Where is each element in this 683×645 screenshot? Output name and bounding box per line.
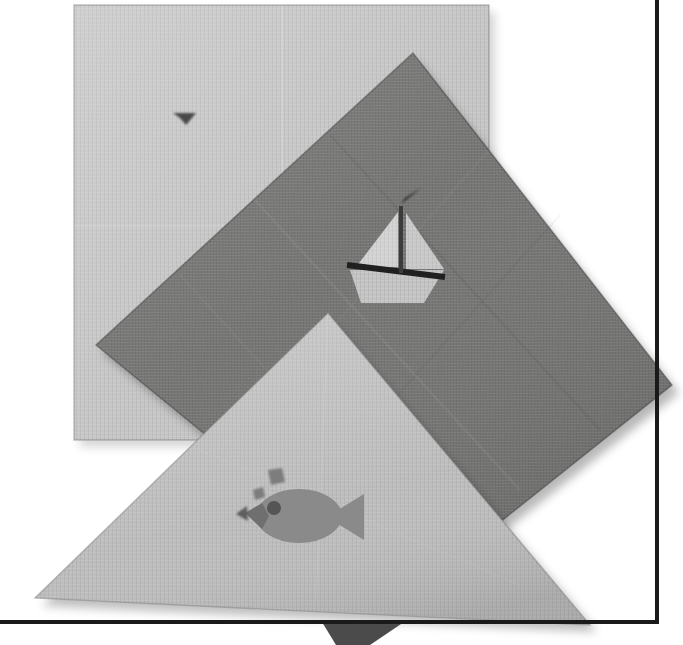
napkin-artwork [0,0,683,645]
fish-eye [267,501,281,515]
scene-canvas: Three overlapping paper napkins on a whi… [0,0,683,645]
fish-bubble-large [268,468,285,485]
shadow-wedge [322,622,404,645]
